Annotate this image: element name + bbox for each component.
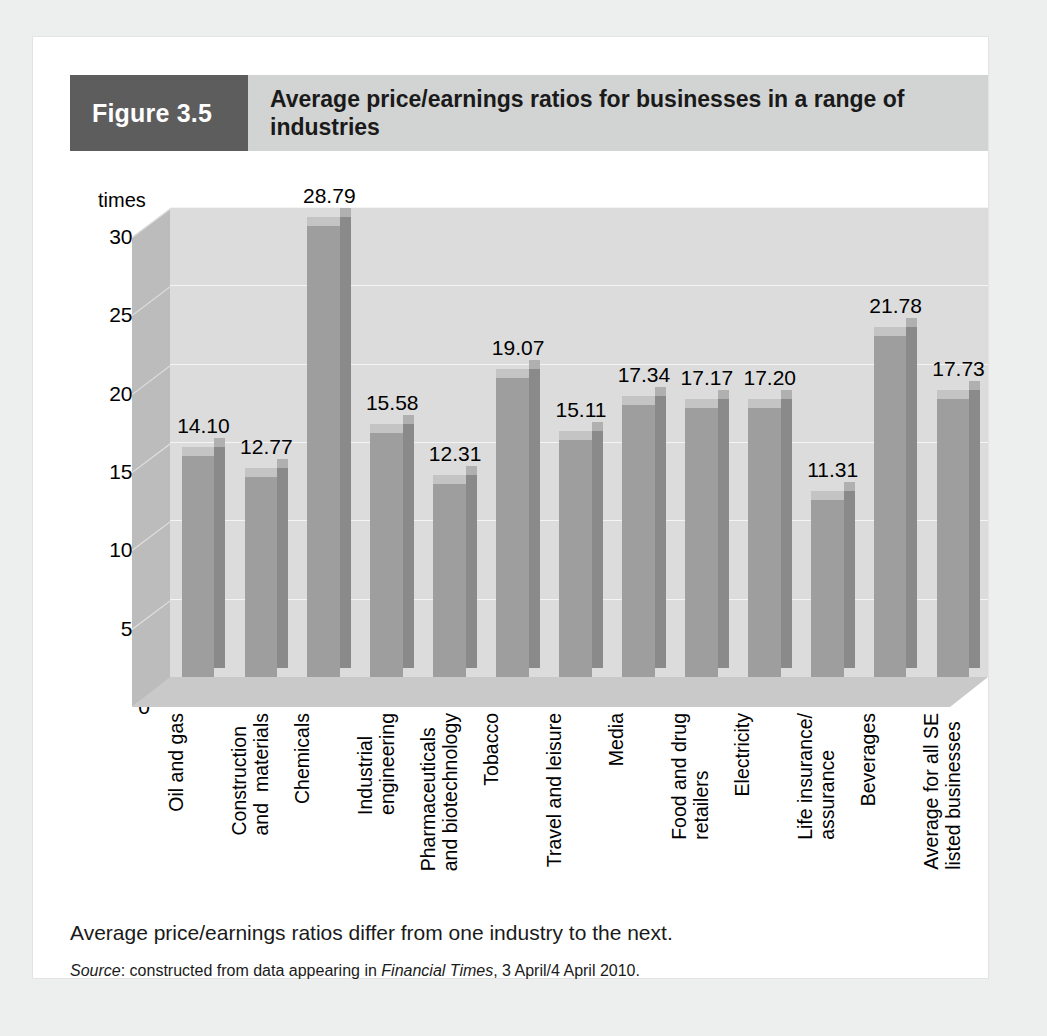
- chart-container: times 05.010.015.020.025.030.0 14.1012.7…: [70, 161, 988, 901]
- bar-front-face: [245, 477, 278, 677]
- bar-top-side-face: [340, 208, 351, 217]
- bar-value-label-12: 17.73: [926, 357, 992, 381]
- bar-top-face: [937, 390, 970, 399]
- bar-0: [182, 456, 215, 677]
- bar-front-face: [811, 500, 844, 677]
- x-axis-label-1: Construction and materials: [229, 713, 273, 835]
- x-axis-label-5: Tobacco: [481, 713, 503, 786]
- bar-7: [622, 405, 655, 677]
- bar-2: [307, 226, 340, 677]
- bar-top-face: [496, 369, 529, 378]
- source-prefix: Source: [70, 962, 121, 979]
- plot-left-wall: [132, 207, 172, 707]
- bar-side-face: [277, 468, 288, 668]
- bar-front-face: [182, 456, 215, 677]
- bar-top-face: [811, 491, 844, 500]
- bar-side-face: [403, 424, 414, 668]
- bar-top-side-face: [655, 387, 666, 396]
- bar-11: [874, 336, 907, 677]
- bar-value-label-9: 17.20: [737, 366, 803, 390]
- bar-value-label-10: 11.31: [800, 458, 866, 482]
- plot-area: 14.1012.7728.7915.5812.3119.0715.1117.34…: [132, 207, 988, 707]
- figure-page: Figure 3.5 Average price/earnings ratios…: [0, 0, 1047, 1036]
- bar-top-side-face: [969, 381, 980, 390]
- x-axis-label-3: Industrial engineering: [355, 713, 399, 815]
- figure-caption: Average price/earnings ratios differ fro…: [70, 921, 673, 945]
- x-axis-label-9: Electricity: [732, 713, 754, 796]
- x-axis-labels: Oil and gasConstruction and materialsChe…: [170, 713, 988, 928]
- bar-top-face: [622, 396, 655, 405]
- bar-value-label-3: 15.58: [359, 391, 425, 415]
- bar-value-label-6: 15.11: [548, 398, 614, 422]
- bar-10: [811, 500, 844, 677]
- bar-top-side-face: [529, 360, 540, 369]
- figure-number-label: Figure 3.5: [70, 75, 248, 151]
- bar-side-face: [655, 396, 666, 668]
- bar-side-face: [844, 491, 855, 668]
- bar-top-side-face: [466, 466, 477, 475]
- bar-front-face: [748, 408, 781, 677]
- bar-top-side-face: [403, 415, 414, 424]
- bar-side-face: [906, 327, 917, 668]
- bar-top-side-face: [906, 318, 917, 327]
- x-axis-label-10: Life insurance/ assurance: [795, 713, 839, 840]
- bar-value-label-5: 19.07: [485, 336, 551, 360]
- gridline-side-5: [132, 285, 173, 316]
- bar-side-face: [466, 475, 477, 668]
- bar-side-face: [592, 431, 603, 668]
- bar-9: [748, 408, 781, 677]
- x-axis-label-12: Average for all SE listed businesses: [921, 713, 965, 870]
- bar-value-label-4: 12.31: [422, 442, 488, 466]
- bar-value-label-8: 17.17: [674, 366, 740, 390]
- x-axis-label-0: Oil and gas: [166, 713, 188, 812]
- x-axis-label-6: Travel and leisure: [544, 713, 566, 867]
- bar-5: [496, 378, 529, 677]
- figure-source: Source: constructed from data appearing …: [70, 962, 640, 980]
- bar-front-face: [685, 408, 718, 677]
- bar-top-face: [685, 399, 718, 408]
- bar-side-face: [340, 217, 351, 668]
- bar-top-side-face: [214, 438, 225, 447]
- bar-top-side-face: [277, 459, 288, 468]
- bar-12: [937, 399, 970, 677]
- x-axis-label-7: Media: [606, 713, 628, 766]
- bar-top-face: [433, 475, 466, 484]
- bar-side-face: [529, 369, 540, 668]
- bar-side-face: [781, 399, 792, 668]
- bar-top-side-face: [844, 482, 855, 491]
- bar-side-face: [214, 447, 225, 668]
- bar-value-label-0: 14.10: [171, 414, 237, 438]
- source-mid: : constructed from data appearing in: [121, 962, 382, 979]
- bar-4: [433, 484, 466, 677]
- gridline-side-1: [132, 599, 173, 630]
- bar-1: [245, 477, 278, 677]
- bar-side-face: [969, 390, 980, 668]
- bar-top-face: [245, 468, 278, 477]
- bar-top-face: [559, 431, 592, 440]
- bar-front-face: [307, 226, 340, 677]
- bar-value-label-7: 17.34: [611, 363, 677, 387]
- gridline-side-3: [132, 442, 173, 473]
- bar-top-face: [307, 217, 340, 226]
- bar-front-face: [559, 440, 592, 677]
- bar-front-face: [937, 399, 970, 677]
- bar-3: [370, 433, 403, 677]
- bar-top-side-face: [592, 422, 603, 431]
- gridline-side-2: [132, 520, 173, 551]
- bar-top-side-face: [781, 390, 792, 399]
- bar-front-face: [433, 484, 466, 677]
- figure-title-bar: Average price/earnings ratios for busine…: [248, 75, 988, 151]
- bar-top-face: [370, 424, 403, 433]
- source-publication: Financial Times: [381, 962, 493, 979]
- bar-top-face: [748, 399, 781, 408]
- bar-top-side-face: [718, 390, 729, 399]
- figure-card: Figure 3.5 Average price/earnings ratios…: [33, 37, 988, 978]
- bar-value-label-2: 28.79: [296, 184, 362, 208]
- bar-front-face: [874, 336, 907, 677]
- bar-6: [559, 440, 592, 677]
- figure-title: Average price/earnings ratios for busine…: [270, 85, 974, 141]
- x-axis-label-11: Beverages: [858, 713, 880, 806]
- bar-top-face: [874, 327, 907, 336]
- x-axis-label-8: Food and drug retailers: [669, 713, 713, 840]
- gridline-side-6: [132, 207, 173, 238]
